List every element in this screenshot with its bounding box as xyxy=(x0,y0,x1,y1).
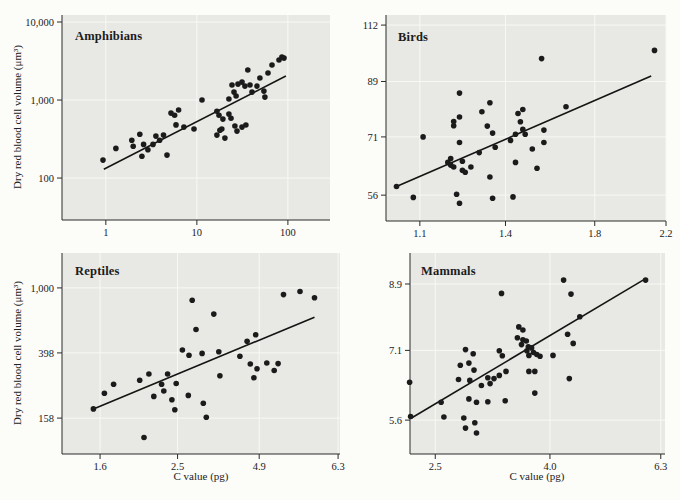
birds-data-point xyxy=(541,127,547,133)
mammals-x-tick-label: 2.5 xyxy=(429,461,442,472)
amphibians-data-point xyxy=(262,94,268,100)
reptiles-data-point xyxy=(217,373,223,379)
reptiles-data-point xyxy=(102,390,108,396)
mammals-data-point xyxy=(466,396,472,402)
reptiles-data-point xyxy=(172,407,178,413)
birds-data-point xyxy=(411,195,417,201)
birds-data-point xyxy=(652,48,658,54)
reptiles-data-point xyxy=(271,368,277,374)
mammals-data-point xyxy=(537,353,543,359)
mammals-data-point xyxy=(438,400,444,406)
amphibians-data-point xyxy=(141,142,147,148)
birds-y-tick-label: 71 xyxy=(368,132,379,143)
amphibians-data-point xyxy=(145,147,151,153)
birds-y-tick-label: 112 xyxy=(363,20,378,31)
reptiles-data-point xyxy=(111,382,117,388)
reptiles-data-point xyxy=(141,435,147,441)
birds-data-point xyxy=(520,107,526,113)
birds-data-point xyxy=(451,164,457,170)
amphibians-data-point xyxy=(129,138,135,144)
mammals-data-point xyxy=(458,362,464,368)
mammals-data-point xyxy=(470,351,476,357)
mammals-data-point xyxy=(472,420,478,426)
amphibians-data-point xyxy=(173,122,179,128)
y-axis-label-top: Dry red blood cell volume (μm³) xyxy=(11,45,23,189)
panel-title-birds: Birds xyxy=(398,30,428,45)
x-axis-label-right: C value (pg) xyxy=(510,470,565,482)
reptiles-data-point xyxy=(297,289,303,295)
y-axis-label-bottom: Dry red blood cell volume (μm³) xyxy=(11,281,23,425)
amphibians-data-point xyxy=(228,115,234,121)
mammals-panel: 2.54.06.35.67.18.9 xyxy=(389,253,667,472)
amphibians-data-point xyxy=(130,144,136,150)
amphibians-data-point xyxy=(257,75,263,81)
amphibians-data-point xyxy=(265,70,271,76)
amphibians-data-point xyxy=(161,132,167,138)
reptiles-y-tick-label: 1,000 xyxy=(30,283,54,294)
mammals-x-tick-label: 6.3 xyxy=(654,461,667,472)
amphibians-data-point xyxy=(214,132,220,138)
mammals-data-point xyxy=(550,353,556,359)
amphibians-plot-background xyxy=(62,15,330,220)
birds-data-point xyxy=(451,123,457,129)
amphibians-data-point xyxy=(233,93,239,99)
mammals-data-point xyxy=(526,369,532,375)
birds-x-tick-label: 2.2 xyxy=(659,228,672,239)
mammals-data-point xyxy=(570,341,576,347)
figure-svg: 1101001001,00010,0001.11.41.82.256718911… xyxy=(0,0,680,500)
mammals-data-point xyxy=(519,342,525,348)
amphibians-y-tick-label: 10,000 xyxy=(25,17,54,28)
reptiles-data-point xyxy=(146,371,152,377)
reptiles-data-point xyxy=(173,381,179,387)
amphibians-data-point xyxy=(220,116,226,122)
birds-data-point xyxy=(541,140,547,146)
reptiles-data-point xyxy=(237,353,243,359)
birds-x-tick-label: 1.8 xyxy=(588,228,601,239)
birds-data-point xyxy=(485,123,491,129)
reptiles-data-point xyxy=(151,394,157,400)
mammals-data-point xyxy=(463,425,469,431)
amphibians-data-point xyxy=(249,89,255,95)
mammals-data-point xyxy=(532,390,538,396)
birds-data-point xyxy=(539,56,545,62)
amphibians-data-point xyxy=(100,157,106,163)
mammals-data-point xyxy=(487,381,493,387)
reptiles-data-point xyxy=(186,393,192,399)
amphibians-data-point xyxy=(254,83,260,89)
mammals-data-point xyxy=(497,348,503,354)
mammals-data-point xyxy=(502,398,508,404)
amphibians-data-point xyxy=(164,152,170,158)
figure-four-panel-scatter: 1101001001,00010,0001.11.41.82.256718911… xyxy=(0,0,680,500)
birds-data-point xyxy=(457,90,463,96)
birds-data-point xyxy=(468,164,474,170)
amphibians-data-point xyxy=(261,88,267,94)
mammals-data-point xyxy=(474,400,480,406)
birds-data-point xyxy=(522,131,528,137)
amphibians-data-point xyxy=(226,96,232,102)
birds-data-point xyxy=(490,195,496,201)
birds-data-point xyxy=(515,111,521,117)
mammals-data-point xyxy=(466,360,472,366)
amphibians-data-point xyxy=(222,135,228,141)
birds-data-point xyxy=(510,194,516,200)
mammals-data-point xyxy=(503,369,509,375)
mammals-data-point xyxy=(561,277,567,283)
mammals-data-point xyxy=(515,335,521,341)
panel-title-amphibians: Amphibians xyxy=(75,29,142,44)
birds-panel: 1.11.41.82.2567189112 xyxy=(363,15,673,239)
birds-data-point xyxy=(457,140,463,146)
reptiles-data-point xyxy=(91,406,97,412)
birds-data-point xyxy=(420,134,426,140)
amphibians-data-point xyxy=(232,123,238,129)
birds-data-point xyxy=(487,100,493,106)
mammals-data-point xyxy=(499,291,505,297)
amphibians-data-point xyxy=(150,142,156,148)
birds-data-point xyxy=(530,146,536,152)
reptiles-data-point xyxy=(165,371,171,377)
birds-data-point xyxy=(448,156,454,162)
birds-data-point xyxy=(520,127,526,133)
mammals-data-point xyxy=(441,414,447,420)
birds-data-point xyxy=(563,104,569,110)
amphibians-data-point xyxy=(181,124,187,130)
birds-data-point xyxy=(476,150,482,156)
